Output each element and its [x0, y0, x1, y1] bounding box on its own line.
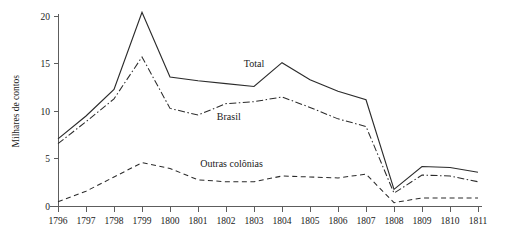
- x-tick-label: 1806: [329, 216, 348, 226]
- y-axis-title: Milhares de contos: [11, 75, 21, 148]
- series-layer: [58, 12, 478, 203]
- x-tick-label: 1797: [77, 216, 96, 226]
- x-tick-label: 1803: [245, 216, 264, 226]
- x-tick-label: 1809: [413, 216, 432, 226]
- y-tick-label: 20: [41, 12, 51, 22]
- x-tick-label: 1811: [469, 216, 488, 226]
- x-tick-label: 1798: [105, 216, 124, 226]
- x-tick-label: 1796: [49, 216, 68, 226]
- series-annotations: TotalBrasilOutras colônias: [200, 58, 264, 169]
- x-tick-label: 1808: [385, 216, 404, 226]
- series-label-total: Total: [244, 58, 265, 69]
- series-label-brasil: Brasil: [217, 111, 241, 122]
- series-line-outras-col-nias: [58, 163, 478, 203]
- series-line-total: [58, 12, 478, 189]
- x-tick-label: 1805: [301, 216, 320, 226]
- chart-container: 05101520 1796179717981799180018011802180…: [0, 0, 508, 244]
- x-tick-label: 1800: [161, 216, 180, 226]
- x-tick-label: 1807: [357, 216, 376, 226]
- y-tick-label: 10: [41, 107, 51, 117]
- series-label-outras-col-nias: Outras colônias: [200, 158, 263, 169]
- x-tick-label: 1804: [273, 216, 292, 226]
- y-tick-label: 15: [41, 59, 51, 69]
- y-axis: 05101520: [41, 12, 59, 213]
- x-tick-label: 1802: [217, 216, 236, 226]
- y-tick-label: 5: [45, 154, 50, 164]
- line-chart: 05101520 1796179717981799180018011802180…: [0, 0, 508, 244]
- x-tick-label: 1799: [133, 216, 152, 226]
- x-axis: 1796179717981799180018011802180318041805…: [49, 207, 488, 226]
- y-tick-label: 0: [45, 202, 50, 212]
- x-tick-label: 1810: [441, 216, 460, 226]
- x-tick-label: 1801: [189, 216, 208, 226]
